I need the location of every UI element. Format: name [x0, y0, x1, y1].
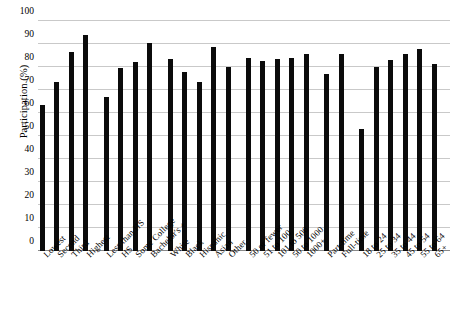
bar-chart: Participation (%) 0102030405060708090100…	[0, 0, 454, 314]
y-tick-label: 70	[25, 76, 35, 86]
bar	[118, 68, 123, 251]
plot-area: 0102030405060708090100	[38, 21, 450, 251]
bar	[226, 67, 231, 251]
bar	[197, 82, 202, 251]
y-tick-label: 0	[29, 237, 34, 247]
y-tick-label: 40	[25, 145, 35, 155]
bar	[304, 54, 309, 251]
bar	[54, 82, 59, 251]
y-tick-label: 50	[25, 122, 35, 132]
y-tick-label: 10	[25, 214, 35, 224]
bar	[83, 35, 88, 251]
y-tick-label: 30	[25, 168, 35, 178]
bar	[260, 61, 265, 251]
x-axis-tick-labels: LowestSecondThirdHighestLess than HSHSSo…	[38, 253, 450, 314]
y-tick-label: 80	[25, 53, 35, 63]
bar	[40, 105, 45, 251]
y-tick-label: 60	[25, 99, 35, 109]
bar	[246, 58, 251, 251]
y-tick-label: 90	[25, 30, 35, 40]
y-tick-label: 20	[25, 191, 35, 201]
bar	[147, 43, 152, 251]
bar	[374, 67, 379, 251]
bar	[432, 64, 437, 251]
bar	[104, 97, 109, 251]
bar	[69, 52, 74, 251]
bar	[417, 49, 422, 251]
bar	[211, 47, 216, 251]
bar	[339, 54, 344, 251]
bar	[388, 60, 393, 251]
bar-series	[38, 21, 450, 251]
y-tick-label: 100	[20, 7, 34, 17]
bar	[324, 74, 329, 251]
bar	[289, 58, 294, 251]
bar	[403, 54, 408, 251]
